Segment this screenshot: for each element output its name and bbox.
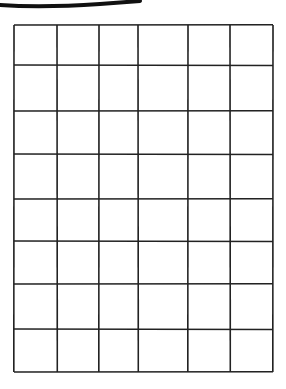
table-cell <box>138 199 188 241</box>
row-divider <box>14 329 273 330</box>
table-cell <box>14 25 57 65</box>
table-cell <box>14 154 57 199</box>
table-cell <box>188 111 230 154</box>
row-divider <box>14 241 273 242</box>
table-cell <box>14 111 57 154</box>
table-cell <box>14 284 57 329</box>
table-cell <box>138 284 188 329</box>
table-cell <box>188 241 230 284</box>
table-cell <box>188 154 230 199</box>
table-cell <box>14 241 57 284</box>
table-cell <box>99 199 138 241</box>
table-cell <box>188 65 230 111</box>
table-cell <box>57 154 99 199</box>
table-cell <box>14 65 57 111</box>
table-cell <box>230 65 273 111</box>
table-cell <box>99 329 138 372</box>
table-cell <box>99 111 138 154</box>
table-cell <box>188 199 230 241</box>
table-cell <box>188 329 230 372</box>
table-cell <box>230 154 273 199</box>
table-cell <box>57 284 99 329</box>
table-cell <box>57 241 99 284</box>
table-cell <box>138 65 188 111</box>
table-cell <box>57 111 99 154</box>
table-cell <box>230 25 273 65</box>
table-cell <box>230 199 273 241</box>
table-cell <box>138 111 188 154</box>
table-cell <box>230 329 273 372</box>
table-cell <box>14 329 57 372</box>
table-cell <box>57 329 99 372</box>
table-cell <box>99 154 138 199</box>
table-cell <box>138 329 188 372</box>
table-cell <box>57 199 99 241</box>
table-cell <box>188 284 230 329</box>
table-cell <box>230 284 273 329</box>
table-cell <box>14 199 57 241</box>
table-cell <box>138 25 188 65</box>
table-cell <box>230 111 273 154</box>
table-cell <box>138 154 188 199</box>
table-cell <box>138 241 188 284</box>
table-cell <box>57 25 99 65</box>
row-divider <box>14 154 273 155</box>
table-cell <box>188 25 230 65</box>
table-cell <box>99 284 138 329</box>
row-divider <box>14 65 273 66</box>
table-cell <box>99 25 138 65</box>
table-cell <box>57 65 99 111</box>
table-cell <box>99 241 138 284</box>
empty-table-grid <box>0 0 286 389</box>
table-cell <box>230 241 273 284</box>
grid-sheet <box>0 0 286 389</box>
table-cell <box>99 65 138 111</box>
